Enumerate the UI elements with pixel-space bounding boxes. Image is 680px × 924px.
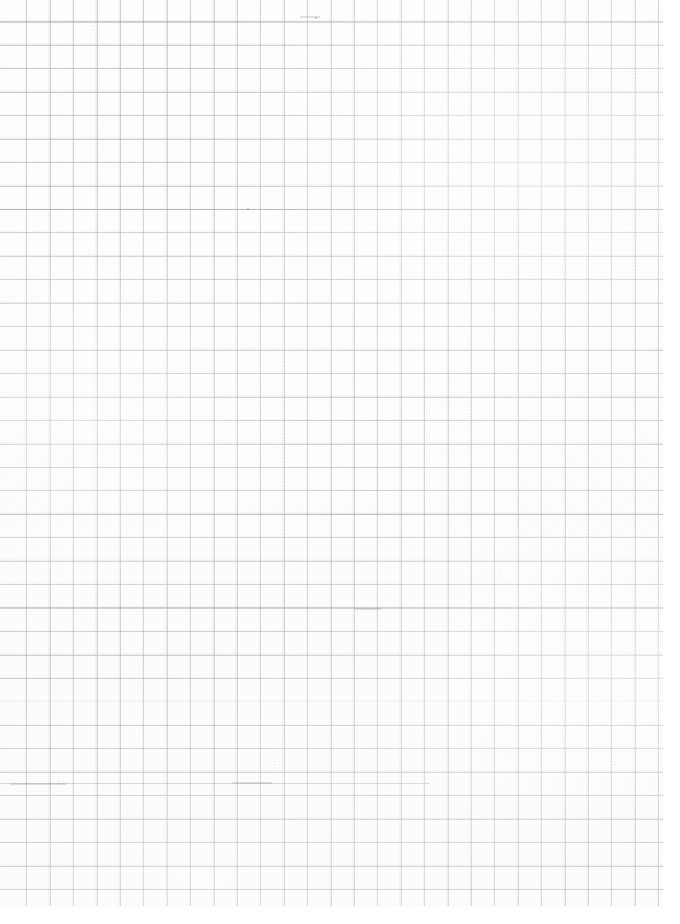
- scanned-page: A scanned blank sheet of quadrille (grap…: [0, 0, 680, 924]
- graph-grid-ghost: [0, 0, 663, 906]
- page-margin-right: [663, 0, 680, 924]
- page-margin-bottom: [0, 906, 680, 924]
